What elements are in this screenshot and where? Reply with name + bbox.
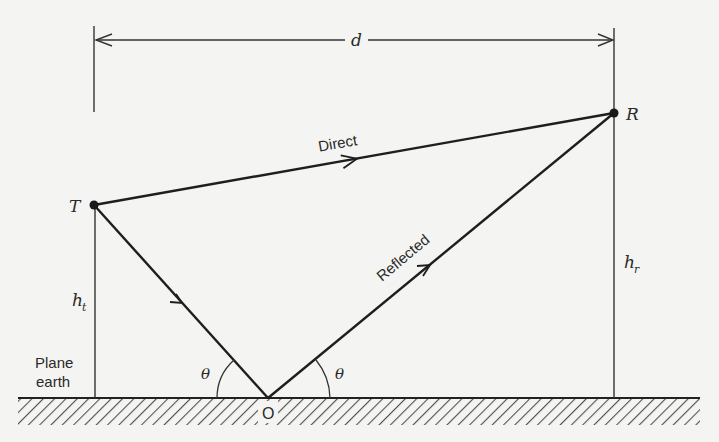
plane-earth-label-line2: earth (36, 373, 70, 390)
svg-text:r: r (634, 263, 640, 276)
direct-path (94, 113, 614, 205)
direct-path-label: Direct (317, 131, 359, 155)
ground-hatch (18, 399, 700, 425)
receiver-label: R (625, 104, 639, 124)
incident-path-arrowhead (170, 294, 182, 303)
plane-earth-label-line1: Plane (35, 354, 73, 371)
transmitter-node (90, 201, 99, 210)
distance-label: d (351, 30, 362, 50)
transmitter-label: T (69, 196, 82, 216)
rx-height-label: h r (624, 252, 640, 276)
reflection-point-label: O (262, 405, 274, 422)
svg-text:t: t (82, 301, 87, 314)
reflected-path (268, 113, 614, 398)
reflection-angle-arc (316, 360, 330, 398)
receiver-node (610, 109, 619, 118)
reflection-angle-label: θ (335, 365, 344, 383)
tx-height-label: h t (72, 290, 87, 314)
incidence-angle-arc (217, 360, 234, 398)
two-ray-diagram: d Direct Reflected T R h t h r Plane ear… (0, 0, 719, 442)
incidence-angle-label: θ (201, 365, 210, 383)
